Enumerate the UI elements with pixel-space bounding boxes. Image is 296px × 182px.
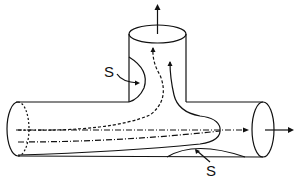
lower-separation-bubble xyxy=(167,149,245,158)
inlet-ellipse-back xyxy=(18,102,29,156)
streamline-to-branch xyxy=(18,48,163,130)
branch-flow-arrow-icon xyxy=(151,47,156,52)
upper-separation-bubble xyxy=(129,57,145,102)
dividing-streamline-arrow-icon xyxy=(168,61,173,66)
upper-s-arrow-icon xyxy=(135,81,140,86)
outlet-arrow-right-icon xyxy=(288,127,294,133)
upper-separation-label: S xyxy=(104,64,114,79)
outlet-arrow-up-icon xyxy=(155,4,161,10)
main-pipe-bottom xyxy=(18,156,263,157)
upper-s-leader xyxy=(117,74,138,83)
inlet-ellipse-front xyxy=(7,102,18,156)
t-junction-diagram xyxy=(0,0,296,182)
lower-separation-label: S xyxy=(206,163,216,178)
centerline-arrow-icon xyxy=(243,128,249,133)
centerline-lower xyxy=(18,131,220,142)
